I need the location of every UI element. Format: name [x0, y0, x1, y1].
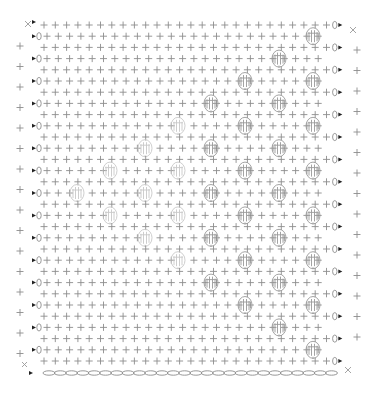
single-crochet-icon: [97, 111, 104, 118]
single-crochet-icon: [233, 358, 240, 365]
single-crochet-icon: [89, 302, 96, 309]
single-crochet-icon: [134, 100, 141, 107]
fasten-marker-icon: [338, 337, 342, 341]
single-crochet-icon: [108, 246, 115, 253]
single-crochet-icon: [52, 335, 59, 342]
single-crochet-icon: [145, 302, 152, 309]
single-crochet-icon: [55, 190, 62, 197]
fasten-marker-icon: [32, 191, 36, 195]
single-crochet-icon: [221, 156, 228, 163]
single-crochet-icon: [55, 33, 62, 40]
single-crochet-icon: [77, 302, 84, 309]
single-crochet-icon: [247, 324, 254, 331]
single-crochet-icon: [224, 100, 231, 107]
single-crochet-icon: [154, 358, 161, 365]
single-crochet-icon: [111, 145, 118, 152]
single-crochet-icon: [258, 234, 265, 241]
single-crochet-icon: [190, 234, 197, 241]
single-crochet-icon: [41, 134, 48, 141]
single-crochet-icon: [108, 335, 115, 342]
fasten-marker-icon: [338, 68, 342, 72]
single-crochet-icon: [157, 257, 164, 264]
single-crochet-icon: [202, 257, 209, 264]
single-crochet-icon: [202, 212, 209, 219]
single-crochet-icon: [145, 167, 152, 174]
single-crochet-icon: [17, 166, 24, 173]
single-crochet-icon: [236, 212, 243, 219]
single-crochet-icon: [77, 279, 84, 286]
single-crochet-icon: [354, 293, 361, 300]
single-crochet-icon: [111, 55, 118, 62]
single-crochet-icon: [74, 290, 81, 297]
single-crochet-icon: [74, 335, 81, 342]
single-crochet-icon: [255, 201, 262, 208]
single-crochet-icon: [190, 212, 197, 219]
single-crochet-icon: [89, 257, 96, 264]
single-crochet-icon: [17, 145, 24, 152]
foundation-chain-icon: [43, 371, 55, 375]
single-crochet-icon: [63, 156, 70, 163]
single-crochet-icon: [168, 324, 175, 331]
single-crochet-icon: [199, 134, 206, 141]
single-crochet-icon: [154, 313, 161, 320]
foundation-chain-icon: [145, 371, 157, 375]
single-crochet-icon: [168, 234, 175, 241]
single-crochet-icon: [187, 134, 194, 141]
single-crochet-icon: [44, 122, 51, 129]
foundation-chain-icon: [77, 371, 89, 375]
single-crochet-icon: [89, 212, 96, 219]
single-crochet-icon: [77, 145, 84, 152]
single-crochet-icon: [202, 346, 209, 353]
single-crochet-icon: [74, 22, 81, 29]
single-crochet-icon: [300, 201, 307, 208]
single-crochet-icon: [255, 156, 262, 163]
single-crochet-icon: [267, 313, 274, 320]
single-crochet-icon: [315, 78, 322, 85]
single-crochet-icon: [142, 358, 149, 365]
single-crochet-icon: [255, 178, 262, 185]
single-crochet-icon: [303, 55, 310, 62]
single-crochet-icon: [89, 122, 96, 129]
single-crochet-icon: [315, 279, 322, 286]
single-crochet-icon: [292, 257, 299, 264]
single-crochet-icon: [221, 44, 228, 51]
single-crochet-icon: [303, 234, 310, 241]
chain-icon: [37, 279, 41, 286]
single-crochet-icon: [123, 33, 130, 40]
single-crochet-icon: [52, 44, 59, 51]
single-crochet-icon: [120, 358, 127, 365]
single-crochet-icon: [131, 290, 138, 297]
single-crochet-icon: [281, 257, 288, 264]
single-crochet-icon: [17, 104, 24, 111]
fasten-marker-icon: [338, 225, 342, 229]
single-crochet-icon: [89, 324, 96, 331]
single-crochet-icon: [165, 290, 172, 297]
single-crochet-icon: [145, 257, 152, 264]
fasten-marker-icon: [32, 101, 36, 105]
single-crochet-icon: [168, 33, 175, 40]
single-crochet-icon: [131, 178, 138, 185]
single-crochet-icon: [303, 324, 310, 331]
bobble-stitch-lines-icon: [240, 209, 250, 224]
single-crochet-icon: [303, 190, 310, 197]
single-crochet-icon: [145, 346, 152, 353]
single-crochet-icon: [233, 111, 240, 118]
single-crochet-icon: [100, 100, 107, 107]
single-crochet-icon: [86, 358, 93, 365]
single-crochet-icon: [289, 335, 296, 342]
single-crochet-icon: [213, 100, 220, 107]
single-crochet-icon: [120, 156, 127, 163]
single-crochet-icon: [247, 190, 254, 197]
single-crochet-icon: [52, 290, 59, 297]
fasten-marker-icon: [32, 325, 36, 329]
single-crochet-icon: [120, 313, 127, 320]
single-crochet-icon: [292, 324, 299, 331]
single-crochet-icon: [168, 190, 175, 197]
single-crochet-icon: [142, 268, 149, 275]
chain-icon: [333, 357, 337, 364]
single-crochet-icon: [315, 234, 322, 241]
single-crochet-icon: [233, 201, 240, 208]
single-crochet-icon: [233, 335, 240, 342]
single-crochet-icon: [213, 234, 220, 241]
bobble-stitch-lines-icon: [308, 75, 318, 90]
